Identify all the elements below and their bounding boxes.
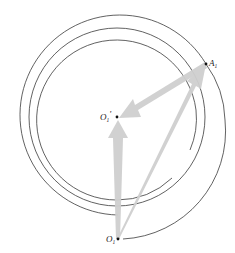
outer-point-label: A1 [208, 58, 218, 69]
outer-point [205, 63, 208, 66]
bottom-point [117, 238, 120, 241]
spiral-arc-outer [20, 15, 226, 239]
spiral-diagram: O1' A1 O1 [0, 0, 235, 253]
center-point [116, 116, 119, 119]
arrow-bottom-to-center [108, 120, 128, 239]
center-label: O1' [100, 109, 112, 123]
bottom-point-label: O1 [106, 234, 116, 245]
